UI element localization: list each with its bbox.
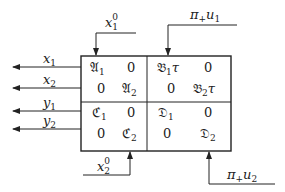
output-label-x2: x2 [43, 73, 56, 89]
output-label-y2: y2 [43, 114, 56, 130]
x1-0-base: x [105, 15, 112, 30]
cell-tau: τ [208, 81, 215, 96]
cell-sub: 1 [101, 112, 107, 122]
cell-symbol: 0 [127, 60, 135, 75]
matrix-cell-zero: 0 [204, 106, 212, 119]
pi-u1-label: π+u1 [190, 8, 220, 24]
matrix-cell-zero: 0 [97, 127, 105, 140]
cell-symbol: 0 [163, 126, 171, 141]
pi-symbol: π [190, 7, 199, 22]
cell-symbol: ℭ [122, 126, 131, 141]
x2-0-base: x [97, 159, 104, 174]
cell-sub: 2 [131, 133, 137, 143]
matrix-cell-C1: ℭ1 [92, 106, 107, 122]
matrix-cell-A2: 𝔄2 [122, 82, 137, 98]
output-sub: 1 [50, 102, 56, 112]
cell-symbol: 0 [127, 105, 135, 120]
cell-symbol: 0 [167, 81, 175, 96]
cell-symbol: 𝔅 [157, 60, 166, 75]
cell-tau: τ [172, 60, 179, 75]
matrix-cell-zero: 0 [127, 106, 135, 119]
pi-u2-label: π+u2 [227, 168, 257, 184]
u-sub: 2 [251, 174, 257, 184]
matrix-cell-B2tau: 𝔅2τ [193, 82, 215, 98]
x2-0-sub: 2 [104, 167, 110, 176]
matrix-cell-zero: 0 [167, 82, 175, 95]
plus-sub: + [236, 174, 244, 184]
cell-symbol: 0 [97, 81, 105, 96]
matrix-cell-C2: ℭ2 [122, 127, 137, 143]
cell-symbol: 0 [204, 60, 212, 75]
x1-0-label: x01 [105, 16, 120, 29]
cell-sub: 2 [131, 88, 137, 98]
cell-symbol: 𝔇 [200, 126, 210, 141]
matrix-cell-A1: 𝔄1 [90, 61, 105, 77]
block-diagram: x01 π+u1 x02 π+u2 x1 x2 y1 y2 𝔄1 0 𝔅1τ 0… [0, 0, 285, 192]
pi-u1-input-line [168, 25, 237, 55]
output-label-x1: x1 [43, 52, 56, 68]
cell-symbol: 𝔄 [90, 60, 99, 75]
pi-symbol: π [227, 167, 236, 182]
cell-symbol: 𝔇 [158, 105, 168, 120]
x1-0-sup: 0 [112, 13, 118, 22]
cell-symbol: 𝔄 [122, 81, 131, 96]
u-sub: 1 [214, 14, 220, 24]
cell-symbol: 0 [204, 105, 212, 120]
matrix-cell-D1: 𝔇1 [158, 106, 174, 122]
cell-symbol: 0 [97, 126, 105, 141]
cell-sub: 1 [99, 67, 105, 77]
matrix-cell-zero: 0 [127, 61, 135, 74]
x1-0-input-line [96, 33, 136, 55]
cell-sub: 1 [168, 112, 174, 122]
x2-0-sup: 0 [104, 157, 110, 166]
output-sub: 2 [50, 120, 56, 130]
output-sub: 1 [50, 58, 56, 68]
output-sub: 2 [50, 79, 56, 89]
x1-0-sub: 1 [112, 23, 118, 32]
cell-sub: 2 [210, 133, 216, 143]
cell-symbol: ℭ [92, 105, 101, 120]
matrix-cell-zero: 0 [163, 127, 171, 140]
matrix-cell-zero: 0 [97, 82, 105, 95]
matrix-cell-zero: 0 [204, 61, 212, 74]
output-label-y1: y1 [43, 96, 56, 112]
x2-0-label: x02 [97, 160, 112, 173]
plus-sub: + [199, 14, 207, 24]
matrix-cell-B1tau: 𝔅1τ [157, 61, 179, 77]
matrix-cell-D2: 𝔇2 [200, 127, 216, 143]
cell-symbol: 𝔅 [193, 81, 202, 96]
